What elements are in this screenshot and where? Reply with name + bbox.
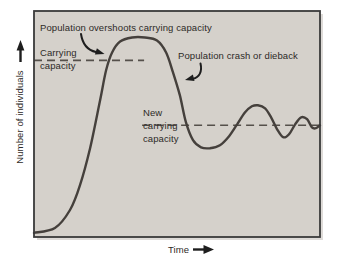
- crash-label: Population crash or dieback: [178, 49, 298, 62]
- y-axis-label: Number of individuals: [13, 70, 26, 163]
- figure-canvas: Population overshoots carrying capacity …: [0, 0, 339, 261]
- x-axis-label: Time: [168, 243, 189, 256]
- new-carrying-capacity-label: New carrying capacity: [143, 106, 179, 145]
- carrying-capacity-label: Carrying capacity: [40, 46, 77, 72]
- overshoot-label: Population overshoots carrying capacity: [40, 21, 212, 34]
- time-arrow-icon: [193, 245, 214, 254]
- y-axis-arrow-icon: [17, 40, 25, 62]
